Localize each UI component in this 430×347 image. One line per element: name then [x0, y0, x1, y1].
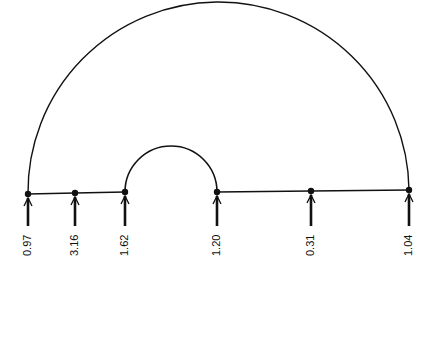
node-dot	[308, 188, 314, 194]
node-label: 1.62	[119, 235, 130, 256]
arrow-up-icon	[121, 196, 129, 226]
node-dot	[122, 189, 128, 195]
arrow-up-icon	[71, 197, 79, 226]
node-dot	[25, 191, 31, 197]
node-dot	[406, 187, 412, 193]
node-label: 3.16	[69, 235, 80, 256]
edge-segment	[75, 192, 125, 193]
arrow-up-icon	[307, 195, 315, 226]
inner-arc	[125, 146, 217, 192]
node-label: 1.04	[403, 235, 414, 256]
arrow-up-icon	[405, 194, 413, 226]
arc-diagram	[0, 0, 430, 347]
node-dot	[72, 190, 78, 196]
edge-segment	[311, 190, 409, 191]
node-label: 1.20	[211, 235, 222, 256]
arrow-up-icon	[213, 196, 221, 226]
arrow-up-icon	[24, 198, 32, 226]
edge-segment	[28, 193, 75, 194]
node-label: 0.31	[305, 235, 316, 256]
node-dot	[214, 189, 220, 195]
outer-arc	[28, 2, 409, 194]
node-label: 0.97	[22, 235, 33, 256]
edge-segment	[217, 191, 311, 192]
